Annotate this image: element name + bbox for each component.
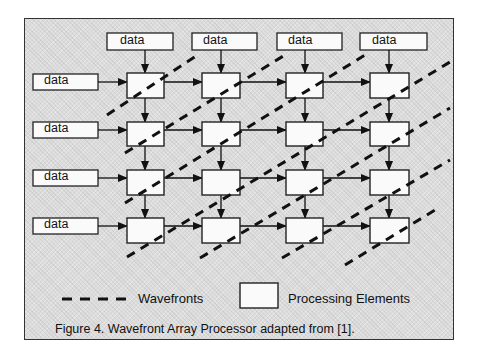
legend-wavefronts-label: Wavefronts — [138, 292, 203, 305]
top-input-label: data — [288, 34, 312, 47]
left-input-label: data — [44, 170, 68, 183]
left-input-boxes — [33, 74, 98, 234]
top-input-label: data — [120, 34, 144, 47]
left-input-label: data — [44, 74, 68, 87]
left-input-label: data — [44, 218, 68, 231]
legend-processing-elements-label: Processing Elements — [288, 292, 410, 305]
top-input-label: data — [372, 34, 396, 47]
left-input-label: data — [44, 122, 68, 135]
figure-caption: Figure 4. Wavefront Array Processor adap… — [55, 322, 355, 336]
top-input-label: data — [203, 34, 227, 47]
legend-pe-swatch — [240, 283, 278, 308]
